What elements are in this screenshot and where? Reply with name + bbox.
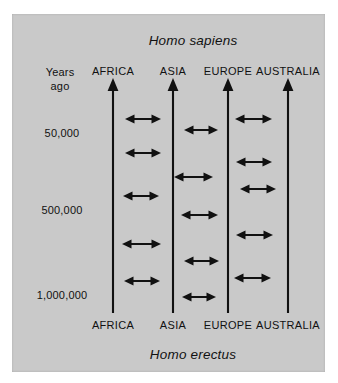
region-label-top-australia: AUSTRALIA	[256, 66, 320, 77]
gene-flow-arrow-asia-europe-8-head-right	[210, 256, 220, 265]
gene-flow-arrow-asia-europe-6-head-left	[174, 172, 184, 181]
region-label-top-europe: EUROPE	[204, 66, 252, 77]
region-label-bottom-europe: EUROPE	[204, 320, 252, 331]
region-label-bottom-africa: AFRICA	[92, 320, 134, 331]
gene-flow-arrow-africa-asia-0-head-left	[125, 114, 135, 123]
gene-flow-arrow-europe-australia-13-head-left	[236, 230, 246, 239]
gene-flow-arrow-europe-australia-13	[236, 230, 273, 239]
years-ago-line2: ago	[46, 80, 75, 94]
gene-flow-arrow-africa-asia-0-head-right	[152, 114, 162, 123]
gene-flow-arrow-asia-europe-6	[174, 172, 213, 181]
year-tick-label-1: 500,000	[41, 205, 82, 216]
gene-flow-arrow-asia-europe-7	[181, 210, 218, 219]
gene-flow-arrow-asia-europe-8	[184, 256, 219, 265]
region-label-bottom-asia: ASIA	[160, 320, 186, 331]
gene-flow-arrow-europe-australia-11	[236, 157, 272, 166]
gene-flow-arrow-africa-asia-4	[124, 276, 160, 285]
gene-flow-arrow-europe-australia-10-head-right	[263, 114, 273, 123]
lineage-arrow-europe	[223, 78, 234, 313]
gene-flow-arrow-africa-asia-1-head-left	[125, 148, 135, 157]
gene-flow-arrow-africa-asia-2-head-left	[123, 191, 133, 200]
year-tick-label-2: 1,000,000	[37, 290, 88, 301]
gene-flow-arrow-africa-asia-2	[123, 191, 159, 200]
gene-flow-arrow-asia-europe-9	[182, 292, 216, 301]
lineage-arrow-africa	[108, 78, 119, 313]
gene-flow-arrow-africa-asia-3	[122, 239, 161, 248]
region-label-top-africa: AFRICA	[92, 66, 134, 77]
gene-flow-arrow-europe-australia-12	[240, 184, 276, 193]
lineage-arrowhead-africa	[108, 78, 119, 91]
gene-flow-arrow-europe-australia-11-head-right	[263, 157, 273, 166]
gene-flow-arrow-africa-asia-1	[125, 148, 161, 157]
gene-flow-arrow-europe-australia-14-head-right	[262, 273, 272, 282]
gene-flow-arrow-asia-europe-6-head-right	[204, 172, 214, 181]
gene-flow-arrow-europe-australia-13-head-right	[264, 230, 274, 239]
gene-flow-arrow-africa-asia-2-head-right	[150, 191, 160, 200]
gene-flow-arrow-africa-asia-1-head-right	[152, 148, 162, 157]
multiregional-evolution-diagram: Homo sapiens Years ago AFRICAAFRICAASIAA…	[0, 0, 338, 383]
gene-flow-arrow-asia-europe-7-head-right	[209, 210, 219, 219]
lineage-arrow-australia	[283, 78, 294, 313]
gene-flow-arrow-africa-asia-0	[125, 114, 161, 123]
lineage-arrowhead-asia	[168, 78, 179, 91]
region-label-top-asia: ASIA	[160, 66, 186, 77]
gene-flow-arrow-europe-australia-14	[234, 273, 271, 282]
lineage-arrow-asia	[168, 78, 179, 313]
gene-flow-arrow-europe-australia-10	[235, 114, 272, 123]
region-label-bottom-australia: AUSTRALIA	[256, 320, 320, 331]
gene-flow-arrow-africa-asia-3-head-left	[122, 239, 132, 248]
gene-flow-arrow-asia-europe-5-head-right	[209, 125, 219, 134]
gene-flow-arrow-europe-australia-12-head-right	[267, 184, 277, 193]
gene-flow-arrow-asia-europe-5-head-left	[184, 125, 194, 134]
gene-flow-arrow-africa-asia-4-head-right	[151, 276, 161, 285]
gene-flow-arrow-asia-europe-5	[184, 125, 218, 134]
gene-flow-arrow-europe-australia-11-head-left	[236, 157, 246, 166]
lineage-arrowhead-australia	[283, 78, 294, 91]
gene-flow-arrow-europe-australia-12-head-left	[240, 184, 250, 193]
top-species-label: Homo sapiens	[149, 34, 238, 48]
gene-flow-arrow-asia-europe-8-head-left	[184, 256, 194, 265]
lineage-arrowhead-europe	[223, 78, 234, 91]
gene-flow-arrow-asia-europe-9-head-right	[207, 292, 217, 301]
year-tick-label-0: 50,000	[45, 128, 80, 139]
gene-flow-arrow-asia-europe-7-head-left	[181, 210, 191, 219]
gene-flow-arrow-europe-australia-14-head-left	[234, 273, 244, 282]
gene-flow-arrow-europe-australia-10-head-left	[235, 114, 245, 123]
bottom-species-label: Homo erectus	[150, 348, 236, 362]
gene-flow-arrow-africa-asia-3-head-right	[152, 239, 162, 248]
gene-flow-arrow-africa-asia-4-head-left	[124, 276, 134, 285]
years-ago-axis-header: Years ago	[46, 66, 75, 94]
gene-flow-arrow-asia-europe-9-head-left	[182, 292, 192, 301]
years-ago-line1: Years	[46, 66, 75, 80]
